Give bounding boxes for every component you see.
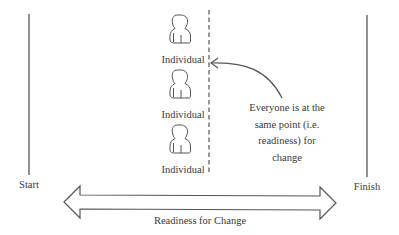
individual-label: Individual xyxy=(161,165,204,176)
person-icon xyxy=(170,70,191,98)
annotation-line: Everyone is at the xyxy=(232,100,342,117)
person-icon xyxy=(170,125,191,153)
start-label: Start xyxy=(19,180,39,191)
individual-label: Individual xyxy=(161,110,204,121)
annotation-line: same point (i.e. xyxy=(232,117,342,134)
annotation-line: change xyxy=(232,150,342,167)
curved-pointer-arrow xyxy=(212,63,282,98)
finish-label: Finish xyxy=(354,182,380,193)
annotation-line: readiness) for xyxy=(232,133,342,150)
marker-annotation: Everyone is at the same point (i.e. read… xyxy=(232,100,342,166)
axis-label: Readiness for Change xyxy=(154,216,246,227)
person-icon xyxy=(170,15,191,43)
individual-label: Individual xyxy=(161,55,204,66)
